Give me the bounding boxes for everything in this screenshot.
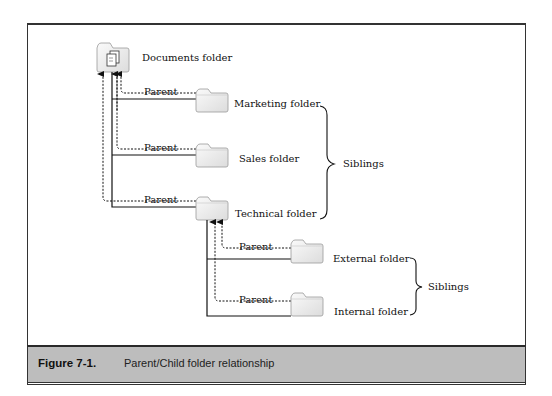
technical-folder-icon [196,197,228,220]
marketing-folder-label: Marketing folder [234,98,320,109]
external-folder-label: External folder [333,253,410,264]
parent-arrows-technical [215,222,291,301]
parent-label: Parent [239,294,272,305]
documents-folder-label: Documents folder [142,52,232,63]
parent-label: Parent [144,142,177,153]
figure-caption: Parent/Child folder relationship [124,357,274,369]
siblings-label: Siblings [343,158,384,169]
sales-folder-icon [196,144,228,167]
documents-folder-icon [97,43,129,72]
parent-label: Parent [144,194,177,205]
marketing-folder-icon [196,89,228,112]
internal-folder-label: Internal folder [334,306,408,317]
parent-label: Parent [239,241,272,252]
folder-relationship-diagram: Documents folder Parent Parent Parent Ma… [0,0,552,396]
figure-number: Figure 7-1. [38,357,96,369]
external-folder-icon [291,240,323,263]
technical-folder-label: Technical folder [235,208,317,219]
parent-label: Parent [144,86,177,97]
siblings-brace [320,106,334,219]
siblings-label: Siblings [428,281,469,292]
internal-folder-icon [291,293,323,316]
figure-caption-band: Figure 7-1. Parent/Child folder relation… [27,345,526,383]
sales-folder-label: Sales folder [239,153,299,164]
siblings-brace [410,258,422,315]
